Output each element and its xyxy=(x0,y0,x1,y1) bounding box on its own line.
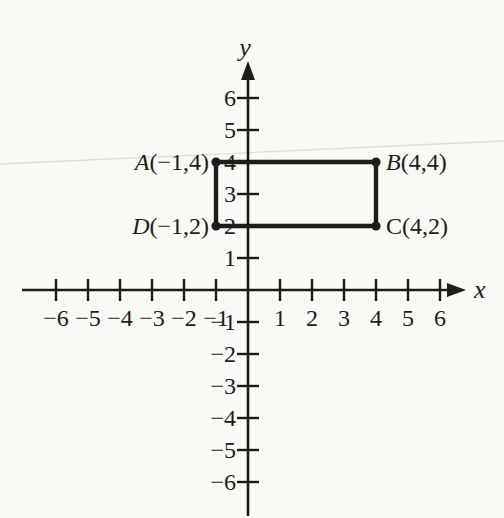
x-tick-label-1: 1 xyxy=(274,305,286,331)
x-tick-label--3: −3 xyxy=(139,305,165,331)
x-tick-label--4: −4 xyxy=(107,305,133,331)
y-tick-label-5: 5 xyxy=(224,117,236,143)
y-tick-label--3: −3 xyxy=(210,373,236,399)
y-tick-label-2: 2 xyxy=(224,213,236,239)
x-tick-label--2: −2 xyxy=(171,305,197,331)
y-tick-label--6: −6 xyxy=(210,469,236,495)
y-axis-label: y xyxy=(236,33,251,62)
x-tick-label-2: 2 xyxy=(306,305,318,331)
y-tick-label-3: 3 xyxy=(224,181,236,207)
x-tick-label--5: −5 xyxy=(75,305,101,331)
x-axis-arrowhead-icon xyxy=(447,283,466,297)
vertex-dot-B xyxy=(371,157,380,166)
y-tick-label-1: 1 xyxy=(224,245,236,271)
x-tick-label--6: −6 xyxy=(43,305,69,331)
coordinate-plane: −6−5−4−3−2−1123456−6−5−4−3−2−1123456 A(−… xyxy=(0,0,504,518)
y-tick-label--5: −5 xyxy=(210,437,236,463)
x-tick-label-3: 3 xyxy=(338,305,350,331)
y-tick-label-4: 4 xyxy=(224,149,236,175)
x-tick-label-6: 6 xyxy=(434,305,446,331)
y-tick-label--2: −2 xyxy=(210,341,236,367)
vertex-label-B: B(4,4) xyxy=(386,149,447,175)
x-axis-label: x xyxy=(473,275,486,304)
y-axis-arrowhead-icon xyxy=(241,61,255,80)
y-tick-label--4: −4 xyxy=(210,405,236,431)
scanned-textbook-figure: −6−5−4−3−2−1123456−6−5−4−3−2−1123456 A(−… xyxy=(0,0,504,518)
vertex-label-D: D(−1,2) xyxy=(131,213,209,239)
vertex-dot-D xyxy=(211,221,220,230)
x-tick-label-4: 4 xyxy=(370,305,382,331)
vertex-dot-A xyxy=(211,157,220,166)
y-tick-label--1: −1 xyxy=(210,309,236,335)
vertex-label-A: A(−1,4) xyxy=(133,149,209,175)
vertex-label-C: C(4,2) xyxy=(386,213,448,239)
vertex-dot-C xyxy=(371,221,380,230)
y-tick-label-6: 6 xyxy=(224,85,236,111)
x-tick-label-5: 5 xyxy=(402,305,414,331)
